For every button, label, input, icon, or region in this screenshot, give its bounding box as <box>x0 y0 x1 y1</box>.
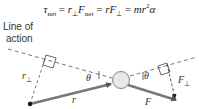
r-vector <box>30 84 111 104</box>
mass-ball <box>113 72 130 89</box>
F-perp-vector <box>167 64 175 98</box>
F-perp-subscript: ⊥ <box>184 80 190 88</box>
r-perp-subscript: ⊥ <box>26 76 32 84</box>
r-perp-line <box>30 59 45 104</box>
right-angle-marker-left <box>43 55 56 68</box>
r-perp-label: r⊥ <box>22 70 32 84</box>
pivot-point <box>28 102 32 106</box>
F-vector <box>128 85 176 100</box>
theta-left-label: θ <box>86 72 91 83</box>
theta-right-label: θ <box>144 70 149 81</box>
F-label: F <box>145 96 151 107</box>
F-perp-label: F⊥ <box>178 74 190 88</box>
r-label: r <box>72 94 76 105</box>
torque-diagram <box>0 0 199 109</box>
